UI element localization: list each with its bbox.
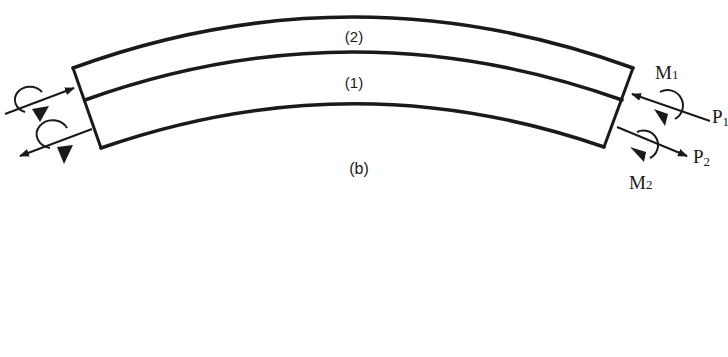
bilayer-beam-diagram: (2) (1) (b) M1 P1 P2 M2 xyxy=(0,0,728,357)
panel-label: (b) xyxy=(349,160,369,177)
left-loads xyxy=(5,87,92,164)
left-moment-arrowhead-lower xyxy=(57,145,73,164)
p1-label: P1 xyxy=(712,106,728,129)
beam-left-end xyxy=(73,68,101,148)
p1-force-arrow xyxy=(632,94,710,121)
m2-label: M2 xyxy=(629,172,652,193)
left-force-arrow-lower xyxy=(20,129,92,156)
p2-force-arrow xyxy=(617,127,687,156)
layer-2-label: (2) xyxy=(345,28,363,45)
m1-moment-arrowhead xyxy=(654,109,668,126)
p2-label: P2 xyxy=(693,146,710,169)
m2-moment-arrowhead xyxy=(630,147,646,162)
left-moment-arrowhead-upper xyxy=(32,106,49,122)
m1-label: M1 xyxy=(655,62,678,83)
layer-1-label: (1) xyxy=(345,74,363,91)
beam-right-end xyxy=(604,68,633,147)
beam-bottom-edge xyxy=(101,104,604,148)
